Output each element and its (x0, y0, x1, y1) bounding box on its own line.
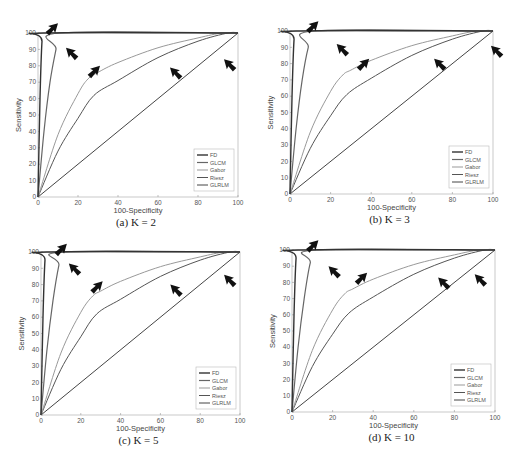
legend-entry-fd: FD (467, 367, 474, 373)
panel-caption: (c) K = 5 (118, 434, 159, 447)
x-tick-label: 60 (410, 414, 418, 421)
legend-entry-glrlm: GLRLM (212, 400, 231, 406)
y-tick-label: 40 (281, 125, 289, 132)
legend-entry-fd: FD (210, 152, 217, 158)
y-tick-label: 70 (32, 297, 40, 304)
y-axis-label: Sensitivity (14, 98, 23, 132)
x-tick-label: 80 (197, 417, 205, 424)
y-tick-label: 40 (283, 343, 291, 350)
roc-panel-a: 0102030405060708090100020406080100100-Sp… (14, 20, 244, 229)
y-tick-label: 20 (29, 160, 37, 167)
y-tick-label: 20 (32, 379, 40, 386)
y-tick-label: 70 (283, 295, 291, 302)
x-tick-label: 80 (449, 196, 457, 203)
y-tick-label: 90 (283, 262, 291, 269)
x-axis-label: 100-Specificity (114, 206, 163, 215)
y-tick-label: 30 (283, 360, 291, 367)
x-tick-label: 0 (39, 417, 43, 424)
y-tick-label: 80 (29, 62, 37, 69)
legend-entry-gabor: Gabor (212, 385, 227, 391)
panel-caption: (b) K = 3 (369, 213, 410, 226)
y-tick-label: 60 (283, 311, 291, 318)
panel-caption: (a) K = 2 (116, 216, 156, 229)
y-tick-label: 30 (32, 362, 40, 369)
x-tick-label: 60 (408, 196, 416, 203)
roc-panel-c: 0102030405060708090100020406080100100-Sp… (17, 240, 246, 447)
x-tick-label: 100 (488, 196, 499, 203)
y-tick-label: 80 (283, 279, 291, 286)
x-axis-label: 100-Specificity (367, 203, 416, 212)
y-tick-label: 20 (281, 158, 289, 165)
x-tick-label: 80 (194, 199, 202, 206)
x-tick-label: 60 (157, 417, 165, 424)
y-tick-label: 60 (32, 313, 40, 320)
y-axis-label: Sensitivity (17, 316, 26, 350)
y-axis-label: Sensitivity (268, 314, 277, 348)
legend-entry-gabor: Gabor (210, 167, 225, 173)
y-tick-label: 10 (281, 174, 289, 181)
legend-entry-glcm: GLCM (465, 157, 481, 163)
legend-entry-riesz: Riesz (465, 172, 479, 178)
y-tick-label: 90 (281, 44, 289, 51)
y-tick-label: 10 (29, 177, 37, 184)
y-tick-label: 10 (32, 395, 40, 402)
x-axis-label: 100-Specificity (116, 424, 165, 433)
x-axis-label: 100-Specificity (369, 421, 418, 430)
legend-entry-fd: FD (212, 370, 219, 376)
legend-entry-gabor: Gabor (465, 164, 480, 170)
y-tick-label: 30 (29, 144, 37, 151)
y-tick-label: 60 (29, 95, 37, 102)
x-tick-label: 0 (288, 196, 292, 203)
legend: FDGLCMGaborRieszGLRLM (449, 146, 489, 188)
x-tick-label: 100 (233, 199, 244, 206)
roc-panel-d: 0102030405060708090100020406080100100-Sp… (268, 237, 501, 444)
y-tick-label: 50 (283, 327, 291, 334)
x-tick-label: 20 (329, 414, 337, 421)
x-tick-label: 40 (368, 196, 376, 203)
x-tick-label: 40 (114, 199, 122, 206)
y-tick-label: 60 (281, 92, 289, 99)
y-tick-label: 40 (29, 128, 37, 135)
legend-entry-glcm: GLCM (212, 378, 228, 384)
x-tick-label: 80 (451, 414, 459, 421)
x-tick-label: 0 (36, 199, 40, 206)
y-tick-label: 70 (281, 76, 289, 83)
x-tick-label: 40 (370, 414, 378, 421)
roc-panel-b: 0102030405060708090100020406080100100-Sp… (266, 18, 505, 226)
legend: FDGLCMGaborRieszGLRLM (196, 367, 236, 409)
legend: FDGLCMGaborRieszGLRLM (451, 364, 491, 406)
legend-entry-glcm: GLCM (210, 160, 226, 166)
y-tick-label: 90 (32, 265, 40, 272)
legend-entry-glrlm: GLRLM (465, 179, 484, 185)
y-tick-label: 50 (32, 330, 40, 337)
y-tick-label: 50 (29, 111, 37, 118)
legend-entry-glrlm: GLRLM (210, 182, 229, 188)
y-axis-label: Sensitivity (266, 95, 275, 129)
x-tick-label: 20 (327, 196, 335, 203)
y-tick-label: 20 (283, 376, 291, 383)
legend-entry-fd: FD (465, 149, 472, 155)
x-tick-label: 0 (290, 414, 294, 421)
y-tick-label: 10 (283, 392, 291, 399)
legend-entry-glrlm: GLRLM (467, 397, 486, 403)
y-tick-label: 90 (29, 46, 37, 53)
legend: FDGLCMGaborRieszGLRLM (194, 149, 234, 191)
y-tick-label: 80 (281, 60, 289, 67)
x-tick-label: 20 (74, 199, 82, 206)
legend-entry-riesz: Riesz (210, 175, 224, 181)
roc-figure: 0102030405060708090100020406080100100-Sp… (0, 0, 515, 468)
y-tick-label: 30 (281, 141, 289, 148)
legend-entry-glcm: GLCM (467, 375, 483, 381)
panel-caption: (d) K = 10 (368, 431, 415, 444)
x-tick-label: 20 (77, 417, 85, 424)
x-tick-label: 40 (117, 417, 125, 424)
legend-entry-riesz: Riesz (212, 393, 226, 399)
legend-entry-gabor: Gabor (467, 382, 482, 388)
x-tick-label: 100 (235, 417, 246, 424)
x-tick-label: 100 (490, 414, 501, 421)
y-tick-label: 50 (281, 109, 289, 116)
y-tick-label: 40 (32, 346, 40, 353)
y-tick-label: 70 (29, 78, 37, 85)
x-tick-label: 60 (154, 199, 162, 206)
y-tick-label: 80 (32, 281, 40, 288)
